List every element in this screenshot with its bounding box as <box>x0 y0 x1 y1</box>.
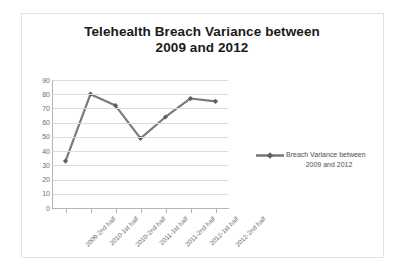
x-axis-tick <box>191 209 192 213</box>
series-line-chart <box>53 80 228 208</box>
legend-label-line-2: 2009 and 2012 <box>286 160 372 170</box>
chart-legend: Breach Variance between 2009 and 2012 <box>256 150 380 169</box>
y-axis-tick-label: 40 <box>28 148 50 155</box>
gridline <box>53 165 228 166</box>
gridline <box>53 108 228 109</box>
y-axis-tick-labels: 9080706050403020100 <box>26 80 50 208</box>
gridline <box>53 80 228 81</box>
gridline <box>53 151 228 152</box>
y-axis-tick-label: 50 <box>28 133 50 140</box>
plot-wrapper: 9080706050403020100 2009-2nd half2010-1s… <box>0 0 407 276</box>
y-axis-tick-label: 20 <box>28 176 50 183</box>
legend-label-line-1: Breach Variance between <box>286 150 380 160</box>
x-axis-tick <box>66 209 67 213</box>
y-axis-tick-label: 10 <box>28 190 50 197</box>
y-axis-line <box>52 80 53 209</box>
gridline <box>53 194 228 195</box>
x-axis-tick <box>216 209 217 213</box>
x-axis-tick <box>166 209 167 213</box>
y-axis-tick-label: 0 <box>28 205 50 212</box>
plot-area <box>53 80 228 208</box>
legend-line-marker-icon <box>256 152 284 159</box>
gridline <box>53 94 228 95</box>
y-axis-tick-label: 30 <box>28 162 50 169</box>
y-axis-tick-label: 90 <box>28 77 50 84</box>
y-axis-tick-label: 60 <box>28 119 50 126</box>
gridline <box>53 180 228 181</box>
x-axis-ticks <box>53 209 229 214</box>
gridline <box>53 123 228 124</box>
y-axis-tick-label: 70 <box>28 105 50 112</box>
data-point-marker <box>213 99 218 104</box>
gridline <box>53 137 228 138</box>
x-axis-tick <box>116 209 117 213</box>
legend-entry: Breach Variance between 2009 and 2012 <box>256 150 380 169</box>
x-axis-tick-labels: 2009-2nd half2010-1st half2010-2nd half2… <box>53 215 253 260</box>
x-axis-tick <box>141 209 142 213</box>
y-axis-tick-label: 80 <box>28 91 50 98</box>
x-axis-tick <box>91 209 92 213</box>
